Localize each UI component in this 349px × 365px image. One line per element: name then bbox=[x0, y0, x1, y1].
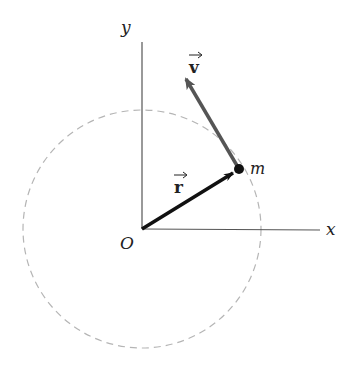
velocity-vector-v bbox=[186, 79, 239, 169]
svg-text:v: v bbox=[188, 57, 200, 77]
mass-label: m bbox=[250, 159, 265, 178]
velocity-label: v bbox=[188, 52, 202, 77]
y-axis-label: y bbox=[120, 17, 131, 37]
position-label: r bbox=[174, 172, 187, 197]
x-axis-label: x bbox=[326, 219, 336, 239]
position-vector-r bbox=[142, 173, 233, 229]
origin-label: O bbox=[120, 233, 134, 253]
diagram-canvas: y x O m v r bbox=[0, 0, 349, 365]
svg-text:r: r bbox=[174, 177, 184, 197]
x-axis bbox=[142, 229, 320, 230]
mass-point bbox=[234, 164, 244, 174]
